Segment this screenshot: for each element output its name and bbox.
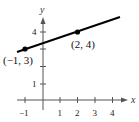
x-tick-label: 3 <box>93 108 98 118</box>
x-tick-label: 4 <box>110 108 115 118</box>
y-axis-label: y <box>39 4 45 15</box>
y-tick-label: 4 <box>32 27 37 37</box>
point-label: (2, 4) <box>71 38 95 51</box>
point-marker <box>75 29 80 34</box>
x-tick-label: 1 <box>58 108 63 118</box>
point-label: (−1, 3) <box>3 54 33 67</box>
x-tick-label: −1 <box>19 108 29 118</box>
y-axis-arrow-icon <box>41 17 46 24</box>
point-marker <box>22 46 27 51</box>
x-tick-label: 2 <box>75 108 80 118</box>
x-axis-label: x <box>130 94 136 105</box>
y-tick-label: 1 <box>32 79 37 89</box>
x-axis-arrow-icon <box>121 98 128 103</box>
line-graph: x y −1 1 2 3 4 1 4 (−1, 3) (2, 4) <box>0 0 139 122</box>
